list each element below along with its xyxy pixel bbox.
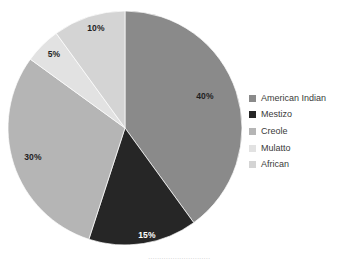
- pie-slice-value-label: 15%: [138, 230, 156, 240]
- legend-item[interactable]: American Indian: [249, 90, 339, 107]
- pie-slice-value-label: 30%: [24, 152, 42, 162]
- pie-slice-value-label: 5%: [48, 49, 61, 59]
- legend-color-swatch-icon: [249, 145, 256, 152]
- clipped-caption-text: ............................: [148, 253, 340, 261]
- legend-color-swatch-icon: [249, 161, 256, 168]
- pie-slice-value-label: 40%: [196, 91, 214, 101]
- legend-item[interactable]: Mulatto: [249, 140, 339, 157]
- legend-item-label: Mulatto: [261, 144, 291, 153]
- pie-slice-value-label: 10%: [87, 23, 105, 33]
- legend-item[interactable]: African: [249, 156, 339, 173]
- pie-chart-screenshot: 40%15%30%5%10% American IndianMestizoCre…: [0, 0, 340, 261]
- legend-item-label: African: [261, 160, 289, 169]
- chart-legend: American IndianMestizoCreoleMulattoAfric…: [249, 90, 339, 173]
- legend-item-label: Creole: [261, 127, 288, 136]
- legend-color-swatch-icon: [249, 95, 256, 102]
- legend-color-swatch-icon: [249, 128, 256, 135]
- legend-color-swatch-icon: [249, 111, 256, 118]
- legend-item-label: Mestizo: [261, 110, 292, 119]
- pie-slice-group: [8, 11, 242, 245]
- legend-item[interactable]: Creole: [249, 123, 339, 140]
- legend-item[interactable]: Mestizo: [249, 107, 339, 124]
- legend-item-label: American Indian: [261, 94, 326, 103]
